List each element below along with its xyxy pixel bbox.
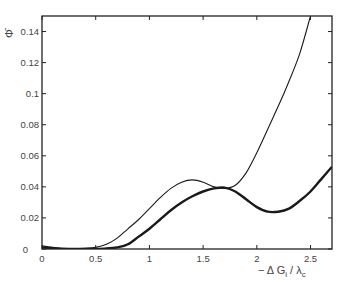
y-tick-label: 0.06 — [21, 150, 40, 161]
x-axis: 00.511.522.5 — [39, 16, 317, 264]
line-chart: 00.511.522.5 00.020.040.060.080.10.120.1… — [0, 0, 344, 293]
thick-curve — [42, 167, 332, 249]
x-tick-label: 2 — [254, 253, 259, 264]
series-layer — [42, 16, 332, 249]
y-tick-label: 0.04 — [21, 181, 40, 192]
y-axis-label: Φ̄ — [3, 27, 15, 38]
x-tick-label: 1.5 — [197, 253, 210, 264]
x-tick-label: 0 — [39, 253, 44, 264]
x-tick-label: 0.5 — [89, 253, 102, 264]
y-tick-label: 0.02 — [21, 212, 40, 223]
x-axis-label: − Δ Gi / λc — [258, 264, 306, 279]
x-tick-label: 1 — [147, 253, 152, 264]
y-tick-label: 0.08 — [21, 119, 40, 130]
y-tick-label: 0.1 — [26, 88, 39, 99]
plot-frame — [42, 16, 332, 249]
x-tick-label: 2.5 — [304, 253, 317, 264]
y-tick-label: 0.14 — [21, 26, 40, 37]
y-tick-label: 0 — [23, 244, 28, 255]
y-axis: 00.020.040.060.080.10.120.14 — [21, 26, 333, 254]
y-tick-label: 0.12 — [21, 57, 40, 68]
thin-curve — [42, 16, 311, 249]
